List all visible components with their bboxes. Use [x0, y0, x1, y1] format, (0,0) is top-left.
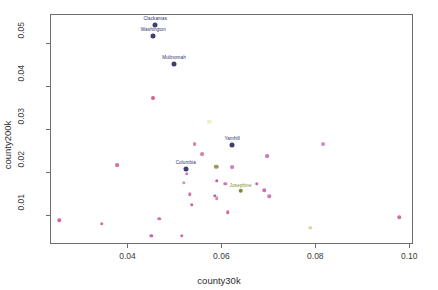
- data-point[interactable]: [223, 182, 227, 186]
- data-point[interactable]: [238, 189, 243, 194]
- data-point[interactable]: [151, 34, 156, 39]
- data-point[interactable]: [207, 120, 211, 124]
- y-tick-mark: [46, 215, 50, 216]
- data-point[interactable]: [151, 96, 155, 100]
- data-point[interactable]: [268, 195, 272, 199]
- y-tick-label: 0.04: [16, 65, 26, 107]
- x-tick-mark: [221, 244, 222, 248]
- data-point-label: Clackamas: [143, 16, 167, 21]
- x-axis-title: county30k: [0, 275, 438, 286]
- data-point-label: Josephine: [230, 183, 252, 188]
- data-point[interactable]: [185, 172, 189, 176]
- data-point-label: Multnomah: [162, 55, 186, 60]
- data-point[interactable]: [100, 222, 104, 226]
- x-tick-mark: [127, 244, 128, 248]
- data-point[interactable]: [262, 189, 266, 193]
- data-point[interactable]: [158, 217, 162, 221]
- x-tick-mark: [315, 244, 316, 248]
- plot-area: ClackamasWashingtonMultnomahYamhillColum…: [50, 14, 413, 244]
- data-point[interactable]: [180, 234, 184, 238]
- scatter-plot-figure: ClackamasWashingtonMultnomahYamhillColum…: [0, 0, 438, 290]
- data-point[interactable]: [230, 143, 235, 148]
- data-point[interactable]: [200, 152, 204, 156]
- x-tick-label: 0.06: [213, 251, 230, 261]
- data-point[interactable]: [182, 181, 186, 185]
- data-point[interactable]: [214, 165, 218, 169]
- y-tick-mark: [46, 43, 50, 44]
- data-point[interactable]: [230, 165, 234, 169]
- y-axis-title: county200k: [2, 121, 13, 170]
- data-point[interactable]: [255, 182, 259, 186]
- data-point[interactable]: [398, 215, 402, 219]
- data-point[interactable]: [190, 203, 194, 207]
- data-point[interactable]: [153, 22, 158, 27]
- data-point[interactable]: [215, 196, 219, 200]
- data-point[interactable]: [308, 226, 312, 230]
- data-point[interactable]: [183, 166, 188, 171]
- y-tick-label: 0.03: [16, 108, 26, 150]
- data-point[interactable]: [226, 211, 230, 215]
- data-point-label: Columbia: [176, 160, 196, 165]
- data-point[interactable]: [172, 62, 177, 67]
- y-tick-mark: [46, 172, 50, 173]
- x-tick-mark: [409, 244, 410, 248]
- y-tick-mark: [46, 129, 50, 130]
- data-point[interactable]: [321, 142, 325, 146]
- data-point[interactable]: [115, 164, 119, 168]
- data-point[interactable]: [150, 234, 154, 238]
- x-tick-label: 0.08: [307, 251, 324, 261]
- data-point[interactable]: [266, 155, 270, 159]
- x-tick-label: 0.04: [119, 251, 136, 261]
- y-tick-mark: [46, 86, 50, 87]
- x-tick-label: 0.10: [401, 251, 418, 261]
- data-point[interactable]: [215, 179, 219, 183]
- y-tick-label: 0.02: [16, 151, 26, 193]
- data-point-label: Washington: [141, 27, 166, 32]
- y-tick-label: 0.05: [16, 22, 26, 64]
- data-point-label: Yamhill: [225, 136, 240, 141]
- data-point[interactable]: [58, 219, 62, 223]
- y-tick-label: 0.01: [16, 194, 26, 236]
- data-point[interactable]: [193, 142, 197, 146]
- data-point[interactable]: [188, 193, 192, 197]
